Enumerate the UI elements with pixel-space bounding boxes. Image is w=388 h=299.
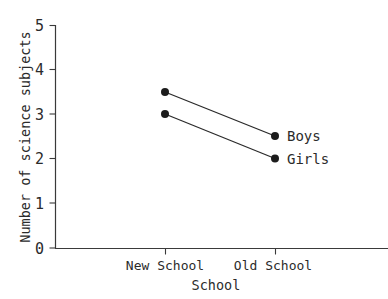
y-axis-title: Number of science subjects (17, 31, 33, 242)
series-label-boys: Boys (287, 128, 321, 144)
y-tick-label-2: 2 (35, 150, 44, 168)
x-category-label-old-school: Old School (234, 258, 312, 273)
y-tick-label-3: 3 (35, 106, 44, 124)
data-point-girls-new-school (161, 110, 169, 118)
data-point-boys-new-school (161, 88, 169, 96)
x-category-label-new-school: New School (126, 258, 204, 273)
y-tick-label-1: 1 (35, 195, 44, 213)
series-label-girls: Girls (287, 151, 329, 167)
data-point-boys-old-school (271, 132, 279, 140)
x-axis-title: School (192, 277, 241, 293)
science-subjects-line-chart: 5 4 3 2 1 0 Number of science subjects N… (0, 0, 388, 299)
y-tick-label-4: 4 (35, 61, 44, 79)
chart-canvas: 5 4 3 2 1 0 Number of science subjects N… (0, 0, 388, 299)
chart-background (0, 0, 388, 299)
y-tick-label-5: 5 (35, 17, 44, 35)
data-point-girls-old-school (271, 155, 279, 163)
y-tick-label-0: 0 (35, 240, 44, 258)
